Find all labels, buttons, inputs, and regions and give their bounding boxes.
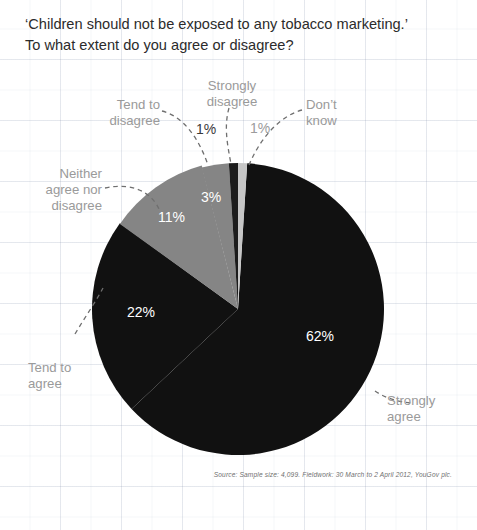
label-neither-line-2: agree nor bbox=[0, 182, 102, 198]
leader-line-dont-know bbox=[249, 110, 302, 165]
label-dont-know: Don’t know bbox=[306, 97, 396, 129]
source-note: Source: Sample size: 4,099. Fieldwork: 3… bbox=[0, 470, 452, 480]
label-tend-to-disagree-line-1: Tend to bbox=[72, 97, 160, 113]
label-dont-know-line-1: Don’t bbox=[306, 97, 396, 113]
label-tend-to-disagree-line-2: disagree bbox=[72, 113, 160, 129]
label-tend-to-agree: Tend to agree bbox=[28, 360, 128, 392]
label-strongly-agree: Strongly agree bbox=[387, 393, 477, 425]
value-label-neither: 11% bbox=[158, 209, 185, 225]
leader-line-tend-to-disagree bbox=[162, 111, 208, 165]
label-strongly-disagree-line-1: Strongly bbox=[186, 78, 278, 94]
value-label-strongly-disagree: 1% bbox=[196, 121, 216, 137]
label-neither-line-3: disagree bbox=[0, 198, 102, 214]
label-neither-agree-nor-disagree: Neither agree nor disagree bbox=[0, 166, 102, 214]
label-strongly-disagree-line-2: disagree bbox=[186, 94, 278, 110]
label-strongly-disagree: Strongly disagree bbox=[186, 78, 278, 110]
leader-line-strongly-disagree bbox=[226, 108, 231, 164]
value-label-tend-to-agree: 22% bbox=[127, 304, 155, 320]
label-strongly-agree-line-1: Strongly bbox=[387, 393, 477, 409]
value-label-strongly-agree: 62% bbox=[306, 328, 334, 344]
value-label-dont-know: 1% bbox=[250, 120, 270, 136]
label-dont-know-line-2: know bbox=[306, 113, 396, 129]
label-tend-to-disagree: Tend to disagree bbox=[72, 97, 160, 129]
label-neither-line-1: Neither bbox=[0, 166, 102, 182]
label-tend-to-agree-line-2: agree bbox=[28, 376, 128, 392]
value-label-tend-to-disagree: 3% bbox=[201, 189, 221, 205]
pie-chart-figure: ‘Children should not be exposed to any t… bbox=[0, 0, 477, 530]
label-tend-to-agree-line-1: Tend to bbox=[28, 360, 128, 376]
label-strongly-agree-line-2: agree bbox=[387, 409, 477, 425]
